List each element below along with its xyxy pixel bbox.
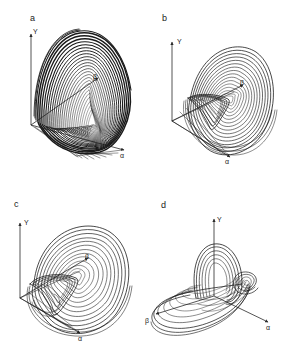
- panel-d-plot: [146, 174, 292, 347]
- panel-a-trajectory: [31, 29, 131, 159]
- panel-d: d Y β α: [146, 174, 292, 347]
- panel-b: b Y β α: [146, 0, 292, 173]
- panel-a: a Y β α: [0, 0, 146, 173]
- panel-d-trajectory: [151, 244, 258, 336]
- panel-c: c Y β α: [0, 174, 146, 347]
- panel-c-plot: [0, 174, 146, 347]
- panel-b-plot: [146, 0, 292, 173]
- panel-a-plot: [0, 0, 146, 173]
- figure-container: a Y β α: [0, 0, 292, 347]
- panel-d-axes: [156, 219, 268, 322]
- panel-c-trajectory: [20, 226, 132, 336]
- panel-b-trajectory: [172, 47, 277, 155]
